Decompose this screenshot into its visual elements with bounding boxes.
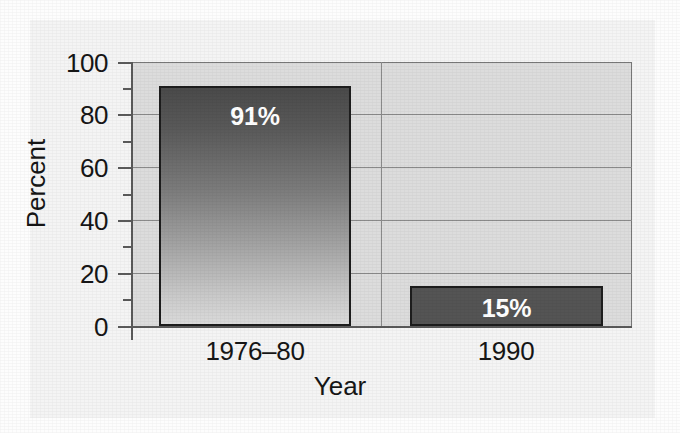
y-tick-minor-50 bbox=[123, 194, 131, 196]
y-axis-title: Percent bbox=[21, 104, 52, 264]
y-tick-major-20 bbox=[118, 273, 131, 275]
y-tick-major-100 bbox=[118, 62, 131, 64]
y-tick-minor-90 bbox=[123, 88, 131, 90]
x-tick-label-1990: 1990 bbox=[406, 336, 606, 367]
category-separator-line bbox=[381, 62, 382, 326]
y-tick-label-60: 60 bbox=[48, 153, 108, 184]
y-tick-major-40 bbox=[118, 220, 131, 222]
y-tick-major-80 bbox=[118, 114, 131, 116]
x-tick-label-1976-80: 1976–80 bbox=[155, 336, 355, 367]
y-tick-label-80: 80 bbox=[48, 100, 108, 131]
bar-value-label-1976-80: 91% bbox=[161, 102, 349, 131]
y-tick-label-20: 20 bbox=[48, 259, 108, 290]
y-tick-major-60 bbox=[118, 167, 131, 169]
bar-1976-80[interactable]: 91% bbox=[159, 86, 351, 326]
y-axis-line bbox=[131, 62, 133, 340]
chart-figure: 91% 15% 100 80 60 40 20 0 Percent 1976–8… bbox=[0, 0, 680, 433]
x-axis-title: Year bbox=[0, 371, 680, 402]
y-tick-minor-70 bbox=[123, 141, 131, 143]
x-axis-line bbox=[118, 326, 632, 328]
bar-1990[interactable]: 15% bbox=[410, 286, 603, 326]
y-tick-label-40: 40 bbox=[48, 206, 108, 237]
y-tick-label-0: 0 bbox=[48, 312, 108, 343]
y-tick-label-100: 100 bbox=[48, 48, 108, 79]
plot-border-right bbox=[631, 62, 632, 326]
plot-area: 91% 15% bbox=[131, 62, 632, 326]
bar-value-label-1990: 15% bbox=[412, 294, 601, 323]
y-tick-minor-30 bbox=[123, 246, 131, 248]
y-tick-major-0 bbox=[118, 326, 131, 328]
y-tick-minor-10 bbox=[123, 299, 131, 301]
